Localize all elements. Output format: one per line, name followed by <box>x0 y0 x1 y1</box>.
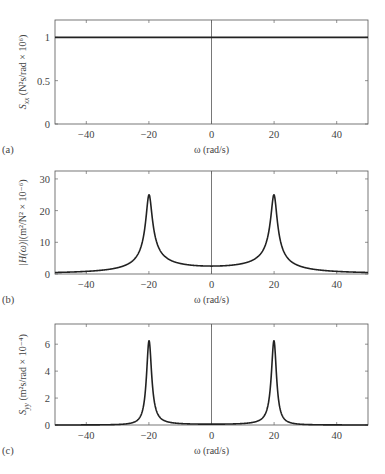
y-tick-label: 20 <box>40 206 51 217</box>
x-tick-label: −20 <box>141 279 157 290</box>
y-tick-label: 1 <box>45 32 50 43</box>
panel-a: −40−200204000.51ω (rad/s)(a)Sxx (N²s/rad… <box>2 20 368 156</box>
y-tick-label: 0 <box>45 269 50 280</box>
x-tick-label: −20 <box>141 129 157 140</box>
x-tick-label: 0 <box>209 129 214 140</box>
y-tick-label: 0 <box>45 119 50 130</box>
x-tick-label: −40 <box>78 279 94 290</box>
y-axis-label: |H(ω)|(m²/N² × 10⁻⁶) <box>17 179 29 265</box>
x-axis-label: ω (rad/s) <box>194 445 229 457</box>
panel-label: (c) <box>2 445 14 457</box>
x-axis-label: ω (rad/s) <box>194 294 229 306</box>
x-tick-label: 0 <box>209 279 214 290</box>
x-tick-label: 40 <box>331 129 342 140</box>
x-tick-label: 0 <box>209 430 214 441</box>
panel-label: (a) <box>2 144 14 156</box>
x-tick-label: −40 <box>78 129 94 140</box>
x-tick-label: −20 <box>141 430 157 441</box>
y-tick-label: 0 <box>45 420 50 431</box>
y-tick-label: 0.5 <box>37 76 50 87</box>
panel-label: (b) <box>2 294 15 306</box>
x-tick-label: 40 <box>331 279 342 290</box>
x-tick-label: −40 <box>78 430 94 441</box>
y-tick-label: 30 <box>40 174 51 185</box>
y-tick-label: 6 <box>45 339 50 350</box>
y-tick-label: 10 <box>40 237 51 248</box>
y-tick-label: 4 <box>45 366 51 377</box>
y-axis-label: Sxx (N²s/rad × 10⁶) <box>17 35 31 110</box>
panel-b: −40−20020400102030ω (rad/s)(b)|H(ω)|(m²/… <box>2 171 368 306</box>
x-tick-label: 40 <box>331 430 342 441</box>
x-tick-label: 20 <box>269 129 280 140</box>
x-axis-label: ω (rad/s) <box>194 144 229 156</box>
x-tick-label: 20 <box>269 430 280 441</box>
y-axis-label: Syy (m²s/rad × 10⁻⁴) <box>17 334 31 414</box>
figure: −40−200204000.51ω (rad/s)(a)Sxx (N²s/rad… <box>0 0 385 474</box>
panel-c: −40−20020400246ω (rad/s)(c)Syy (m²s/rad … <box>2 324 368 457</box>
x-tick-label: 20 <box>269 279 280 290</box>
y-tick-label: 2 <box>45 393 50 404</box>
